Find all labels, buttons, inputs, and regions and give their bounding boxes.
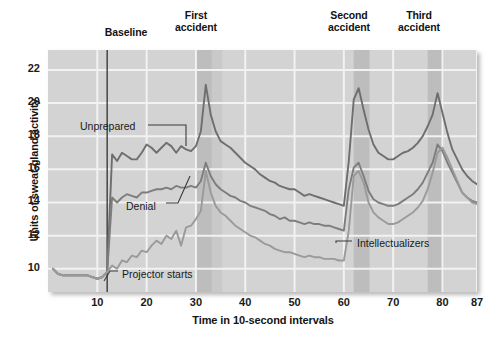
- series-label-intellectualizers: Intellectualizers: [357, 237, 429, 249]
- sweat-gland-activity-chart: Baseline First accident Second accident …: [0, 0, 496, 341]
- annotation-projector-starts: Projector starts: [122, 268, 193, 280]
- series-label-denial: Denial: [126, 200, 156, 212]
- series-label-unprepared: Unprepared: [80, 120, 135, 132]
- accident-band: [212, 50, 222, 292]
- plot-canvas: [0, 0, 496, 341]
- accident-band: [428, 50, 444, 292]
